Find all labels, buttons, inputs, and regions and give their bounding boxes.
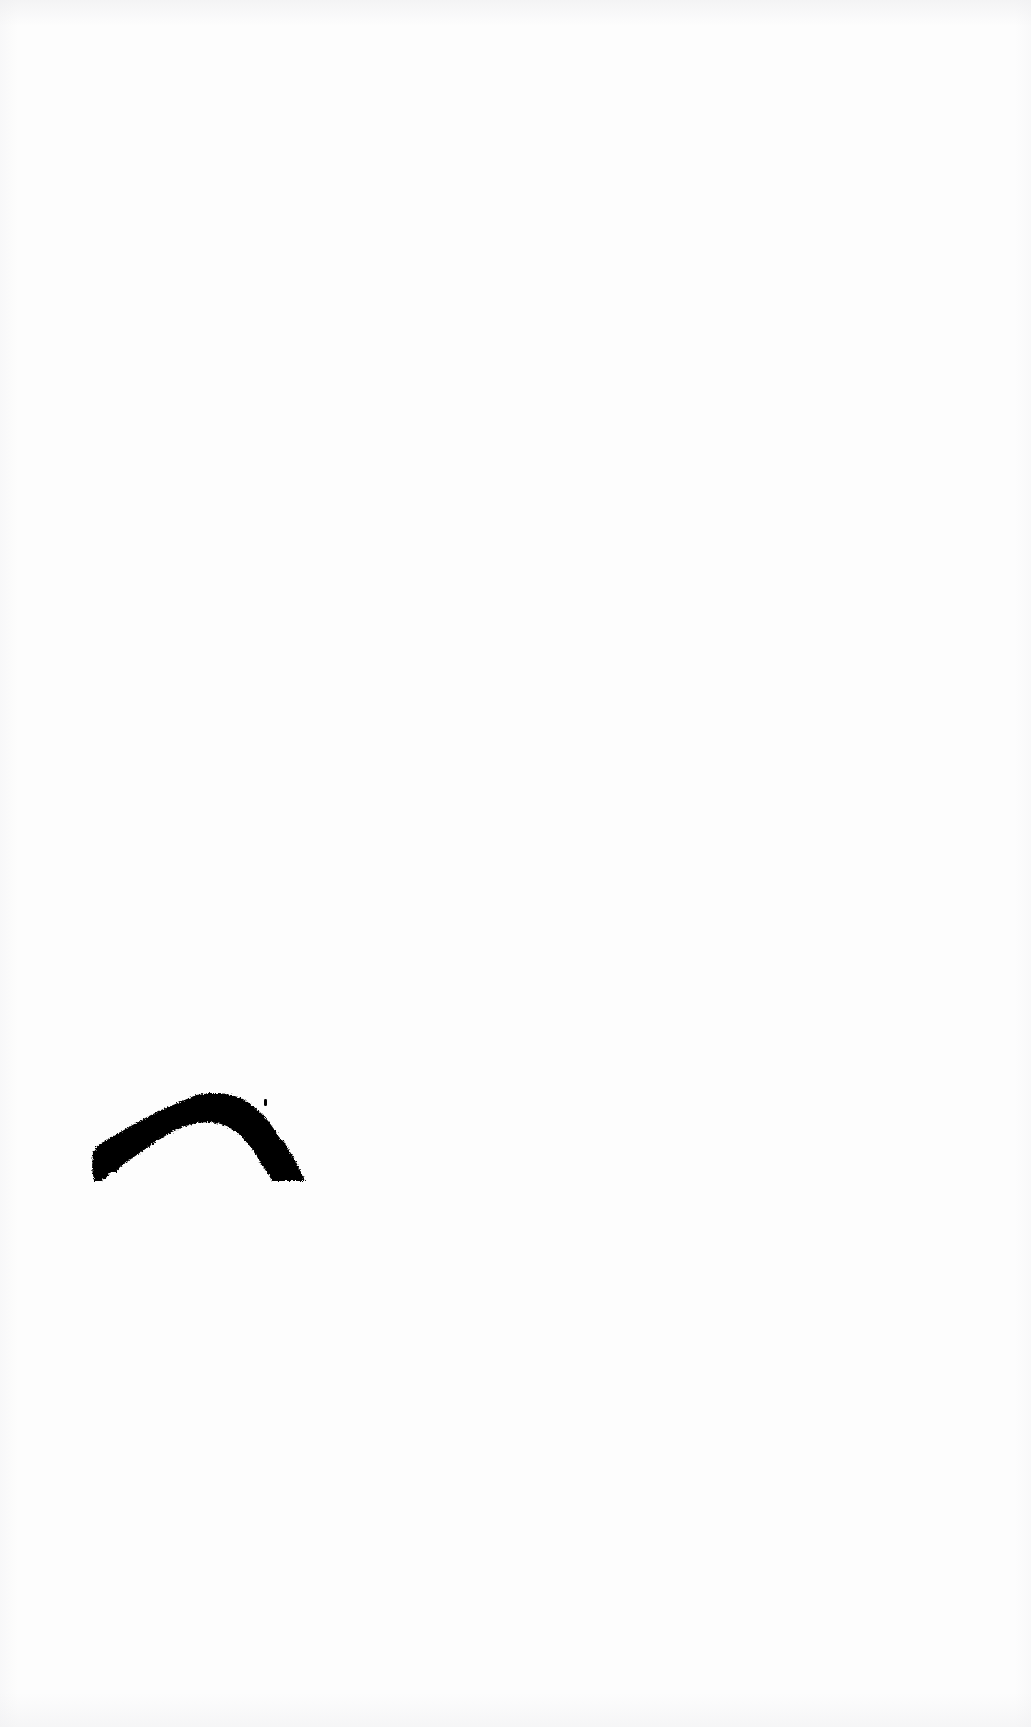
- ink-speck-group: [264, 1099, 267, 1106]
- artwork-layer: [0, 0, 1031, 1727]
- arch-crown-patch: [172, 1093, 258, 1124]
- scanned-page: [0, 0, 1031, 1727]
- ink-speck: [264, 1099, 267, 1106]
- ink-mark-canvas: [0, 0, 1031, 1727]
- brushstroke-group: [92, 1093, 305, 1181]
